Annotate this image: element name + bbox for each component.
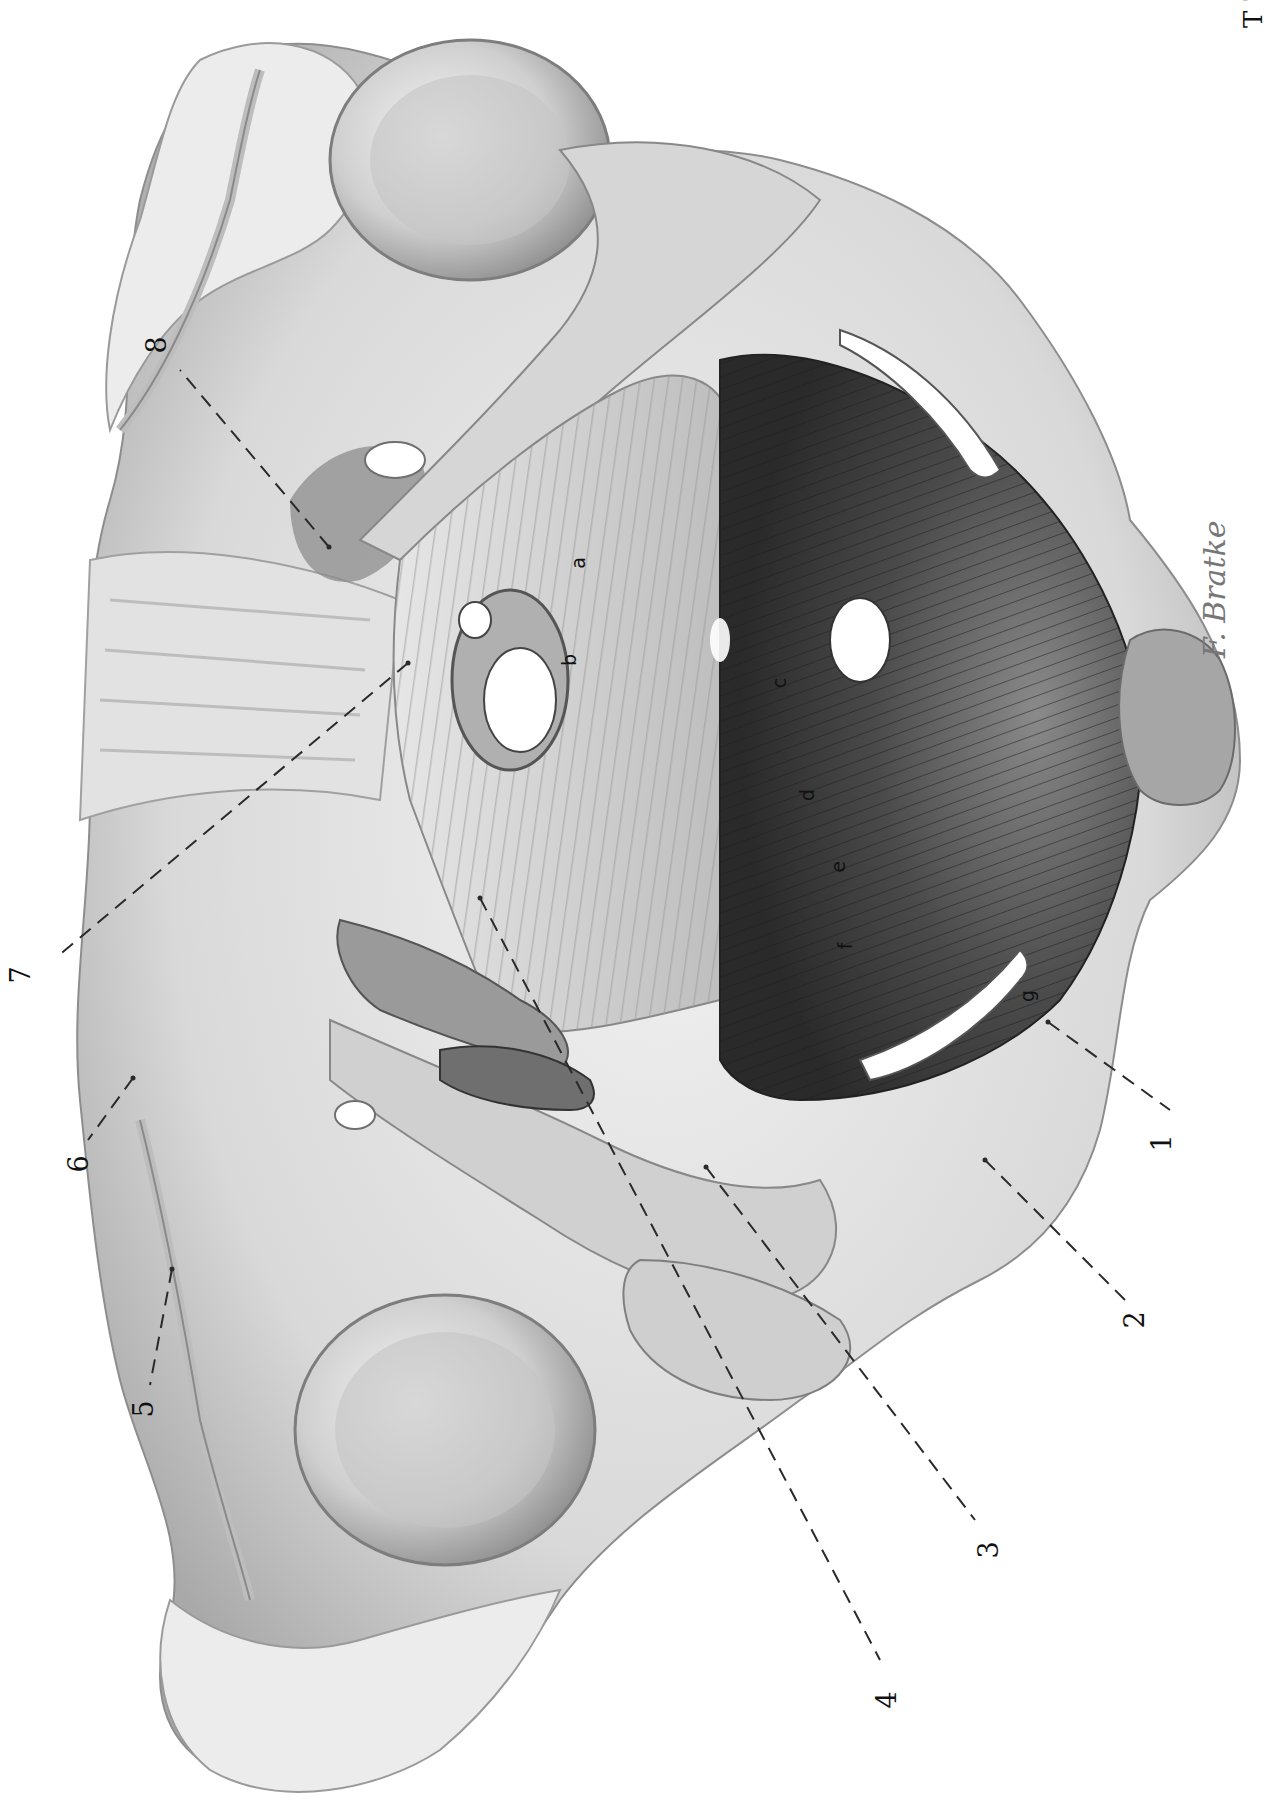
callout-label-2: 2 xyxy=(1121,1305,1151,1335)
leader-dot-8 xyxy=(327,545,332,550)
leader-dot-7 xyxy=(406,661,411,666)
artist-signature: F. Bratke xyxy=(1197,498,1233,658)
callout-label-1: 1 xyxy=(1148,1128,1178,1158)
leader-dot-2 xyxy=(983,1158,988,1163)
upper-sciatic-foramen xyxy=(365,442,425,478)
letter-label-a: a xyxy=(569,553,589,573)
letter-label-c: c xyxy=(770,673,790,693)
leader-dot-1 xyxy=(1046,1020,1051,1025)
letter-label-b: b xyxy=(560,650,580,670)
leader-dot-5 xyxy=(170,1267,175,1272)
letter-label-d: d xyxy=(798,785,818,805)
anterior-opening xyxy=(710,618,730,662)
page-marker: T 7 xyxy=(1238,0,1268,28)
callout-label-4: 4 xyxy=(873,1685,903,1715)
letter-label-g: g xyxy=(1018,986,1038,1006)
callout-label-3: 3 xyxy=(975,1535,1005,1565)
callout-label-6: 6 xyxy=(65,1149,95,1179)
leader-dot-3 xyxy=(704,1165,709,1170)
leader-dot-4 xyxy=(478,896,483,901)
callout-label-7: 7 xyxy=(7,960,37,990)
callout-label-8: 8 xyxy=(143,330,173,360)
callout-label-5: 5 xyxy=(130,1394,160,1424)
letter-label-e: e xyxy=(829,857,849,877)
vascular-canal-opening xyxy=(484,648,556,752)
small-canal-opening xyxy=(459,602,491,638)
anatomical-plate: 1 2 3 4 5 6 7 8 a b c d e f g F. Bratke … xyxy=(0,0,1270,1816)
letter-label-f: f xyxy=(836,936,856,956)
urethral-opening xyxy=(830,598,890,682)
leader-dot-6 xyxy=(131,1076,136,1081)
sacrum xyxy=(80,552,400,820)
lower-sciatic-foramen xyxy=(335,1101,375,1129)
pelvis-illustration xyxy=(0,0,1270,1816)
